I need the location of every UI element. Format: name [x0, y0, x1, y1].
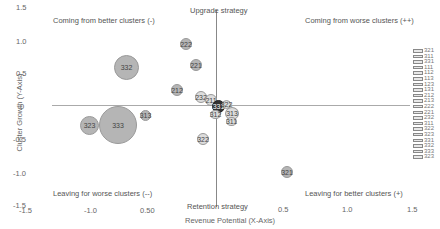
x-tick: 0.50 — [140, 206, 155, 215]
legend-swatch-icon — [413, 111, 423, 115]
legend-swatch-icon — [413, 55, 423, 59]
legend-swatch-icon — [413, 144, 423, 148]
y-tick: 1.0 — [16, 37, 26, 46]
y-tick: -1.0 — [13, 169, 26, 178]
legend-swatch-icon — [413, 155, 423, 159]
bubble-point[interactable]: 222 — [180, 38, 192, 50]
bubble-point[interactable]: 323 — [80, 116, 99, 135]
legend-swatch-icon — [413, 94, 423, 98]
bubble-point[interactable]: 311 — [226, 117, 237, 126]
bubble-point[interactable]: 333 — [99, 106, 137, 144]
legend-swatch-icon — [413, 60, 423, 64]
x-tick: -1.5 — [19, 206, 32, 215]
bubble-point[interactable]: 332 — [114, 55, 139, 80]
quadrant-top-right: Coming from worse clusters (++) — [305, 16, 414, 25]
legend-swatch-icon — [413, 116, 423, 120]
quadrant-bottom-right: Leaving for better clusters (+) — [305, 189, 403, 198]
bubble-point[interactable]: 312 — [210, 110, 221, 119]
legend-swatch-icon — [413, 71, 423, 75]
x-tick: 1.5 — [407, 205, 417, 214]
legend-swatch-icon — [413, 77, 423, 81]
bubble-point[interactable]: 321 — [281, 166, 293, 178]
legend-swatch-icon — [413, 88, 423, 92]
quadrant-top-left: Coming from better clusters (-) — [53, 16, 155, 25]
legend-swatch-icon — [413, 105, 423, 109]
legend-swatch-icon — [413, 150, 423, 154]
legend-swatch-icon — [413, 127, 423, 131]
legend-item[interactable]: 323 — [413, 154, 434, 160]
bubble-point[interactable]: 212 — [171, 84, 183, 96]
axis-annotation-top: Upgrade strategy — [190, 6, 248, 15]
legend-swatch-icon — [413, 83, 423, 87]
bubble-point[interactable]: 313 — [140, 110, 151, 121]
legend: 321 311 331 111 112 113 123 131 212 213 … — [413, 48, 434, 160]
y-tick: 1.5 — [16, 3, 26, 12]
x-tick: 0.5 — [278, 205, 288, 214]
x-tick: 1.0 — [342, 205, 352, 214]
legend-swatch-icon — [413, 133, 423, 137]
x-axis-label: Revenue Potential (X-Axis) — [185, 216, 275, 225]
bubble-point[interactable]: 322 — [197, 133, 209, 145]
quadrant-bottom-left: Leaving for worse clusters (--) — [53, 189, 152, 198]
bubble-point[interactable]: 221 — [190, 59, 202, 71]
legend-swatch-icon — [413, 99, 423, 103]
legend-swatch-icon — [413, 66, 423, 70]
legend-swatch-icon — [413, 49, 423, 53]
x-tick: -1.0 — [84, 206, 97, 215]
axis-annotation-bottom: Retention strategy — [187, 202, 248, 211]
legend-swatch-icon — [413, 122, 423, 126]
y-axis-label: Cluster Growth (Y-Axis) — [15, 73, 24, 151]
legend-swatch-icon — [413, 139, 423, 143]
